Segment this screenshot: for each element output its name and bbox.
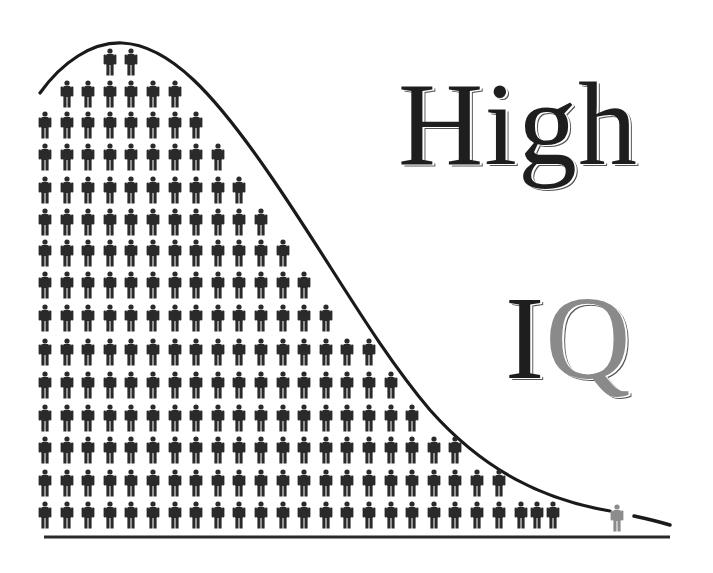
person-icon: [168, 501, 182, 529]
person-icon: [276, 271, 290, 299]
person-icon: [189, 469, 203, 497]
person-icon: [60, 176, 74, 204]
person-icon: [405, 469, 419, 497]
person-icon: [189, 176, 203, 204]
person-icon: [189, 208, 203, 236]
person-icon: [168, 80, 182, 108]
person-icon: [189, 436, 203, 464]
person-icon: [546, 501, 560, 529]
title-letter-i: I: [505, 273, 545, 404]
person-icon: [211, 371, 225, 399]
person-icon: [232, 404, 246, 432]
person-icon: [211, 208, 225, 236]
person-icon: [103, 48, 117, 76]
person-icon: [81, 239, 95, 267]
person-icon: [60, 469, 74, 497]
person-icon: [103, 436, 117, 464]
person-icon: [514, 501, 528, 529]
person-icon: [168, 271, 182, 299]
person-icon: [189, 239, 203, 267]
person-icon: [38, 176, 52, 204]
person-icon: [232, 436, 246, 464]
person-icon: [448, 501, 462, 529]
person-icon: [254, 501, 268, 529]
person-icon: [81, 271, 95, 299]
person-icon: [297, 338, 311, 366]
person-icon: [103, 404, 117, 432]
person-icon: [146, 436, 160, 464]
person-icon: [340, 469, 354, 497]
person-icon: [60, 143, 74, 171]
person-icon: [232, 501, 246, 529]
person-icon: [254, 469, 268, 497]
person-icon: [232, 239, 246, 267]
person-icon: [81, 176, 95, 204]
person-icon: [168, 176, 182, 204]
person-icon: [189, 143, 203, 171]
person-icon: [427, 436, 441, 464]
iq-pictograph-chart: High IQ: [0, 0, 713, 573]
person-icon: [254, 404, 268, 432]
person-icon: [38, 143, 52, 171]
person-icon: [297, 404, 311, 432]
person-icon: [492, 469, 506, 497]
person-icon: [297, 304, 311, 332]
person-icon: [276, 469, 290, 497]
person-icon: [81, 404, 95, 432]
person-icon: [124, 239, 138, 267]
person-icon: [254, 271, 268, 299]
person-icon: [103, 501, 117, 529]
person-icon: [168, 469, 182, 497]
person-icon: [38, 371, 52, 399]
person-icon: [276, 436, 290, 464]
person-icon: [38, 271, 52, 299]
person-icon: [319, 404, 333, 432]
title-letter-q: Q: [545, 273, 631, 404]
person-icon: [340, 338, 354, 366]
person-icon: [384, 436, 398, 464]
person-icon: [103, 111, 117, 139]
person-icon: [189, 501, 203, 529]
person-icon: [211, 176, 225, 204]
person-icon: [124, 436, 138, 464]
person-icon: [189, 338, 203, 366]
person-icon: [124, 338, 138, 366]
person-icon: [168, 404, 182, 432]
person-icon: [60, 111, 74, 139]
person-icon: [297, 501, 311, 529]
person-icon: [103, 271, 117, 299]
person-icon: [146, 304, 160, 332]
person-icon: [211, 271, 225, 299]
person-icon: [38, 338, 52, 366]
person-icon: [38, 208, 52, 236]
person-icon: [103, 371, 117, 399]
person-icon: [146, 404, 160, 432]
person-icon: [168, 436, 182, 464]
person-icon: [254, 436, 268, 464]
person-icon: [60, 304, 74, 332]
person-icon: [60, 208, 74, 236]
person-icon: [254, 208, 268, 236]
person-icon: [103, 239, 117, 267]
person-icon: [168, 304, 182, 332]
person-icon: [319, 304, 333, 332]
person-icon: [146, 208, 160, 236]
person-icon: [103, 80, 117, 108]
person-icon: [276, 501, 290, 529]
person-icon: [232, 371, 246, 399]
person-icon: [405, 501, 419, 529]
person-icon: [81, 436, 95, 464]
person-icon: [81, 80, 95, 108]
person-icon: [38, 501, 52, 529]
person-icon: [319, 371, 333, 399]
person-icon: [124, 404, 138, 432]
person-icon: [297, 271, 311, 299]
person-icon: [427, 469, 441, 497]
person-icon: [211, 436, 225, 464]
person-icon: [146, 501, 160, 529]
person-icon: [81, 501, 95, 529]
person-icon: [60, 404, 74, 432]
person-icon: [492, 501, 506, 529]
person-icon: [124, 80, 138, 108]
person-icon: [384, 404, 398, 432]
